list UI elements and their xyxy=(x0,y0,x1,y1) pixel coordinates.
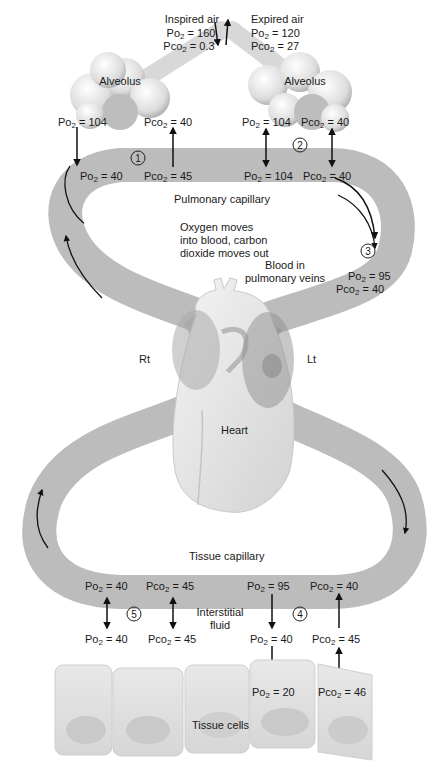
pulmonary-veins-pco2: Pco2 = 40 xyxy=(336,283,384,296)
pulmonary-veins-label-1: Blood in xyxy=(265,259,305,272)
tissue-cells-label: Tissue cells xyxy=(192,719,249,732)
tissue-arterial-cap-pco2: Pco2 = 40 xyxy=(310,580,358,593)
pulmonary-note-line-1: Oxygen moves xyxy=(180,221,253,234)
tissue-cells-pco2: Pco2 = 46 xyxy=(318,686,366,699)
pulmonary-venous-po2: Po2 = 104 xyxy=(244,170,293,183)
alveolus-right-pco2: Pco2 = 40 xyxy=(301,116,349,129)
left-side-label: Lt xyxy=(307,353,316,366)
interstitial-venous-pco2: Pco2 = 45 xyxy=(148,633,196,646)
step-3-badge: 3 xyxy=(361,244,376,259)
tissue-cells-icon xyxy=(55,660,372,760)
heart-label: Heart xyxy=(221,424,248,437)
step-5-badge: 5 xyxy=(127,607,142,622)
alveolus-left-label: Alveolus xyxy=(99,75,141,88)
step-1-badge: 1 xyxy=(131,151,146,166)
expired-pco2: Pco2 = 27 xyxy=(251,40,299,53)
alveolus-right-label: Alveolus xyxy=(284,75,326,88)
tissue-venous-cap-po2: Po2 = 40 xyxy=(85,580,128,593)
inspired-po2: Po2 = 160 xyxy=(167,27,216,40)
pulmonary-note-line-2: into blood, carbon xyxy=(180,234,267,247)
pulmonary-veins-label-2: pulmonary veins xyxy=(245,272,325,285)
gas-exchange-diagram: Inspired air Po2 = 160 Pco2 = 0.3 Expire… xyxy=(0,0,444,773)
inspired-air-label: Inspired air xyxy=(165,13,219,26)
alveolus-left-po2: Po2 = 104 xyxy=(58,116,107,129)
pulmonary-arterial-po2: Po2 = 40 xyxy=(80,170,123,183)
tissue-arterial-cap-po2: Po2 = 95 xyxy=(247,580,290,593)
expired-po2: Po2 = 120 xyxy=(251,27,300,40)
step-4-badge: 4 xyxy=(293,607,308,622)
pulmonary-note-line-3: dioxide moves out xyxy=(180,247,269,260)
alveolus-right-po2: Po2 = 104 xyxy=(242,116,291,129)
pulmonary-veins-po2: Po2 = 95 xyxy=(348,270,391,283)
tissue-capillary-label: Tissue capillary xyxy=(189,550,264,563)
interstitial-arterial-po2: Po2 = 40 xyxy=(250,633,293,646)
interstitial-arterial-pco2: Pco2 = 45 xyxy=(312,633,360,646)
pulmonary-arterial-pco2: Pco2 = 45 xyxy=(144,170,192,183)
right-side-label: Rt xyxy=(139,353,150,366)
tissue-venous-cap-pco2: Pco2 = 45 xyxy=(146,580,194,593)
inspired-pco2: Pco2 = 0.3 xyxy=(163,40,214,53)
alveolus-left-pco2: Pco2 = 40 xyxy=(144,116,192,129)
pulmonary-capillary-label: Pulmonary capillary xyxy=(174,193,270,206)
interstitial-label-2: fluid xyxy=(210,619,230,632)
interstitial-label-1: Interstitial xyxy=(196,606,243,619)
step-2-badge: 2 xyxy=(293,138,308,153)
tissue-cells-po2: Po2 = 20 xyxy=(252,686,295,699)
interstitial-venous-po2: Po2 = 40 xyxy=(85,633,128,646)
expired-air-label: Expired air xyxy=(251,13,304,26)
pulmonary-venous-pco2: Pco2 = 40 xyxy=(303,170,351,183)
